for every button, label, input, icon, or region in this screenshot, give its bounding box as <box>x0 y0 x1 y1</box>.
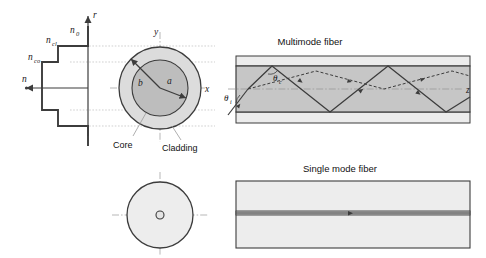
level-label-n0: n 0 <box>70 25 80 37</box>
radius-label-b: b <box>138 78 143 88</box>
cross-section-x-label: x <box>204 84 210 94</box>
singlemode-cross-section <box>112 172 208 256</box>
level-label-ncl-base: n <box>46 35 51 45</box>
multimode-buffer-bottom <box>236 112 470 123</box>
level-label-n0-sub: 0 <box>76 30 80 37</box>
level-label-nco-base: n <box>28 52 33 62</box>
angle-label-incidence-base: θ <box>224 93 229 103</box>
singlemode-core-dot <box>156 211 164 219</box>
level-label-nco-sub: co <box>34 57 41 64</box>
level-label-ncl: n cl <box>46 35 57 47</box>
cross-section-y-label: y <box>153 27 159 37</box>
figure-canvas: r n n 0 n cl n co a b x y <box>0 0 486 258</box>
callout-cladding: Cladding <box>162 143 198 153</box>
angle-label-incidence: θ i <box>224 93 232 105</box>
singlemode-fiber-title: Single mode fiber <box>303 163 377 174</box>
radius-label-a: a <box>167 76 172 86</box>
level-label-n0-base: n <box>70 25 75 35</box>
level-label-ncl-sub: cl <box>52 40 57 47</box>
angle-label-critical-base: θ <box>273 73 278 83</box>
axis-n-origin-dot <box>25 86 28 89</box>
axis-z-label: z <box>465 85 470 95</box>
angle-label-incidence-sub: i <box>230 99 232 105</box>
callout-core: Core <box>113 140 133 150</box>
optical-fiber-diagram: r n n 0 n cl n co a b x y <box>0 0 486 258</box>
multimode-fiber-title: Multimode fiber <box>278 36 343 47</box>
axis-r-label: r <box>93 10 97 20</box>
multimode-fiber-panel: Multimode fiber z θ c θ i <box>224 36 470 123</box>
angle-label-critical-sub: c <box>279 79 282 85</box>
multimode-buffer-top <box>236 56 470 66</box>
leader-line-cladding <box>172 126 181 140</box>
level-label-nco: n co <box>28 52 41 64</box>
axis-n-label: n <box>22 74 27 84</box>
singlemode-fiber-panel: Single mode fiber <box>236 163 470 248</box>
